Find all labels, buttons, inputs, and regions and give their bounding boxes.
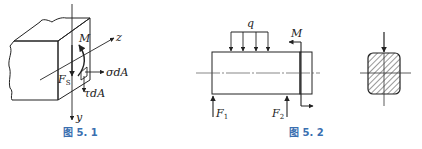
- figure-5-2: q M F1 F2 图 5. 2: [196, 17, 324, 138]
- cross-section-figure: [360, 32, 411, 106]
- z-axis-label: z: [115, 31, 122, 44]
- moment-label: M: [290, 27, 303, 40]
- moment-arrow: [78, 45, 84, 76]
- figure-5-1: M z y FS σdA τdA 图 5. 1: [9, 4, 129, 138]
- force-2-label: F2: [271, 107, 284, 121]
- moment-label: M: [78, 32, 91, 45]
- y-axis-label: y: [75, 111, 83, 124]
- distributed-load-label: q: [247, 17, 254, 30]
- z-axis: [40, 38, 114, 80]
- shear-stress-label: τdA: [84, 87, 105, 100]
- beam-front-face: [9, 41, 58, 100]
- diagram-canvas: M z y FS σdA τdA 图 5. 1 q M F1 F2 图 5. 2: [0, 0, 422, 149]
- force-1-label: F1: [215, 107, 228, 121]
- figure-caption: 图 5. 2: [289, 127, 324, 138]
- shear-force-label: FS: [57, 73, 71, 87]
- normal-force-label: σdA: [106, 66, 129, 79]
- figure-caption: 图 5. 1: [63, 127, 98, 138]
